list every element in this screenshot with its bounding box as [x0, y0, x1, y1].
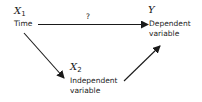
arrow-x2-to-y: [124, 46, 160, 81]
x2-symbol: X2: [70, 62, 82, 75]
y-symbol: Y: [148, 5, 155, 15]
x2-label-line1: Independent: [70, 76, 118, 85]
arrow-x1-to-x2: [24, 33, 64, 78]
y-label-line1: Dependent: [149, 19, 191, 28]
diagram-arrows: [0, 0, 202, 102]
x1-label: Time: [14, 19, 32, 28]
x1-symbol: X1: [14, 6, 26, 19]
edge-question-label: ?: [86, 12, 90, 21]
x2-label-line2: variable: [70, 86, 100, 95]
y-label-line2: variable: [149, 29, 179, 38]
